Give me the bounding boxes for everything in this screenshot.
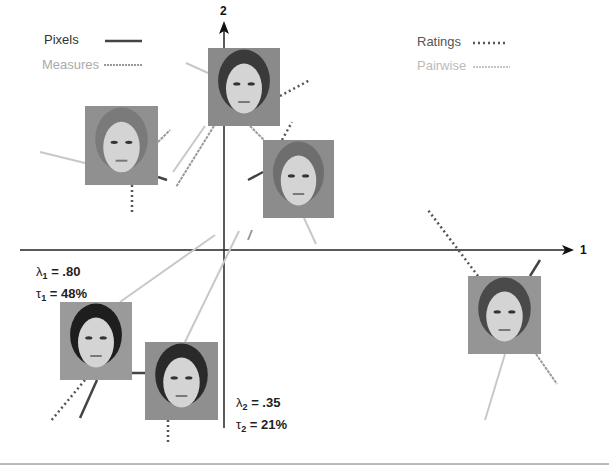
legend-pixels-label: Pixels: [44, 32, 79, 47]
face-photo: [85, 106, 158, 185]
face-blonde-woman: [85, 106, 158, 185]
lambda-1: λ1 = .80: [36, 263, 87, 285]
face-photo: [60, 302, 132, 380]
face-photo: [263, 140, 334, 218]
axis-1-label: 1: [580, 243, 587, 257]
legend-measures-label: Measures: [42, 57, 99, 72]
face-photo: [145, 342, 218, 420]
face-short-hair-man: [208, 48, 280, 126]
legend-ratings-label: Ratings: [417, 34, 461, 49]
face-photo: [208, 48, 280, 126]
face-short-hair-woman: [145, 342, 218, 420]
face-photo: [468, 276, 541, 354]
face-dark-hair-woman: [60, 302, 132, 380]
dimension-2-stats: λ2 = .35 τ2 = 21%: [236, 394, 287, 438]
face-long-hair-man: [263, 140, 334, 218]
dimension-1-stats: λ1 = .80 τ1 = 48%: [36, 263, 87, 307]
legend-pairwise-label: Pairwise: [417, 58, 466, 73]
axis-2-label: 2: [220, 4, 227, 18]
tau-2: τ2 = 21%: [236, 416, 287, 438]
lambda-2: λ2 = .35: [236, 394, 287, 416]
face-bearded-man: [468, 276, 541, 354]
